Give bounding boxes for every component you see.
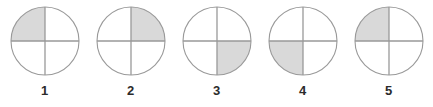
quadrant-circle-item: 2 <box>87 0 174 107</box>
quadrant-circle-3 <box>182 6 252 76</box>
circle-label: 3 <box>173 83 260 99</box>
quadrant-circle-item: 5 <box>345 0 432 107</box>
quadrant-circle-item: 3 <box>173 0 260 107</box>
circle-label: 2 <box>87 83 174 99</box>
quadrant-circle-figure: 12345 <box>0 0 433 107</box>
quadrant-circle-2 <box>96 6 166 76</box>
circle-label: 1 <box>1 83 88 99</box>
quadrant-circle-5 <box>354 6 424 76</box>
quadrant-circle-item: 4 <box>259 0 346 107</box>
quadrant-circle-item: 1 <box>1 0 88 107</box>
quadrant-circle-4 <box>268 6 338 76</box>
quadrant-circle-1 <box>10 6 80 76</box>
circle-label: 4 <box>259 83 346 99</box>
circle-label: 5 <box>345 83 432 99</box>
